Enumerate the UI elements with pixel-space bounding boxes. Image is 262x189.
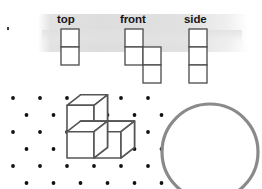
figure-canvas: top front side	[0, 0, 262, 189]
isometric-plot	[0, 0, 262, 189]
